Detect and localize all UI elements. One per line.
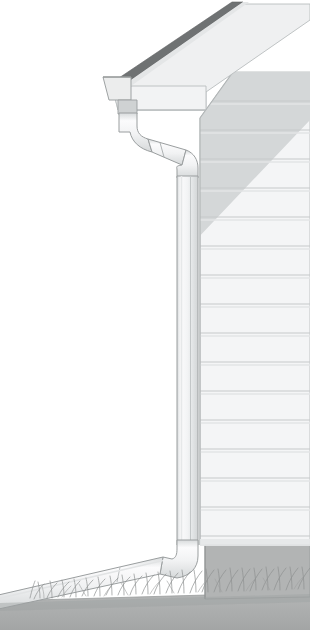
siding-starter-strip	[200, 539, 310, 546]
downspout-offset-segment	[148, 139, 186, 165]
illustration-canvas	[0, 0, 310, 630]
downspout-base-elbow	[160, 540, 198, 578]
gutter-downspout-illustration	[0, 0, 310, 630]
downspout-group	[0, 113, 198, 610]
wall-group	[196, 40, 310, 545]
gutter-outlet-drop	[118, 100, 137, 114]
foundation-wall	[205, 545, 310, 599]
downspout-upper-elbow	[119, 113, 152, 152]
downspout-vertical-run	[177, 176, 198, 545]
foundation-group	[200, 539, 310, 599]
gutter-trough	[103, 77, 131, 100]
